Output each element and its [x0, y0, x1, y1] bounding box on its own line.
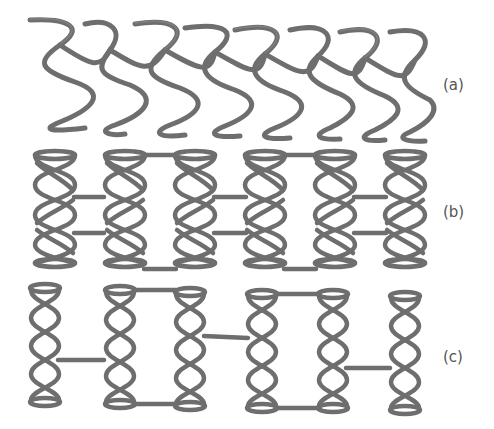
panel-b: (b) — [0, 145, 494, 275]
helical-ring-stent-c-drawing — [0, 280, 494, 420]
panel-a: (a) — [0, 10, 494, 145]
panel-label-a: (a) — [443, 76, 464, 94]
panel-c: (c) — [0, 280, 494, 420]
panel-label-c: (c) — [443, 348, 463, 366]
helical-stent-a-drawing — [0, 10, 494, 145]
panel-label-b: (b) — [443, 203, 464, 221]
coiled-ring-stent-b-drawing — [0, 145, 494, 275]
